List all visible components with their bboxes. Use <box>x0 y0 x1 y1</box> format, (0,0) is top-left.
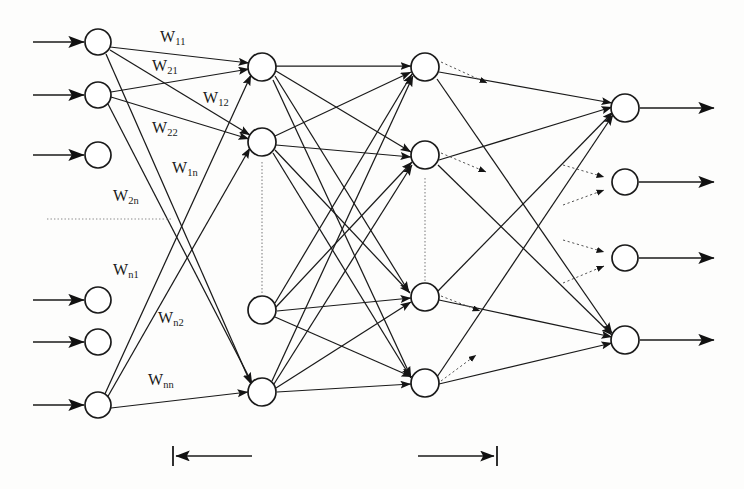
weight-subscript: n2 <box>173 317 184 328</box>
edges-hidden1-to-hidden2 <box>272 66 413 392</box>
node-group <box>85 29 639 418</box>
input-arrow-group <box>33 42 84 405</box>
node-hidden1[interactable] <box>248 128 276 156</box>
dotted-connection-markers <box>441 62 604 381</box>
weight-label-w11: W11 <box>160 29 185 47</box>
weight-label-wnn: Wnn <box>148 372 174 390</box>
weight-symbol: W <box>113 187 128 204</box>
weight-label-w2n: W2n <box>113 188 139 206</box>
weight-label-wn1: Wn1 <box>113 262 139 280</box>
edges-input-to-hidden1 <box>104 47 252 408</box>
edge-h2out <box>439 72 612 103</box>
weight-label-w22: W22 <box>152 120 178 138</box>
edge-h2out <box>438 165 612 335</box>
weight-symbol: W <box>158 309 173 326</box>
weight-subscript: 22 <box>167 127 178 138</box>
node-hidden1[interactable] <box>248 296 276 324</box>
edge-h1h2 <box>275 72 411 136</box>
weight-subscript: nn <box>163 379 174 390</box>
network-canvas <box>0 0 744 489</box>
weight-symbol: W <box>172 159 187 176</box>
weight-subscript: 21 <box>167 65 178 76</box>
weight-subscript: 11 <box>175 36 185 47</box>
edge-h2out <box>439 107 612 160</box>
edge-h1h2 <box>276 162 412 307</box>
weight-label-w1n: W1n <box>172 160 198 178</box>
node-input[interactable] <box>85 29 111 55</box>
layer-caption-row: Input Layer Hidden Layers Output Layer <box>0 440 744 480</box>
edge-w21 <box>111 69 249 92</box>
weight-symbol: W <box>203 89 218 106</box>
edge-h2out <box>437 79 612 333</box>
node-hidden2[interactable] <box>411 141 439 169</box>
weight-subscript: 12 <box>218 97 229 108</box>
dotted-marker-icon <box>563 165 604 177</box>
edge-h2out <box>438 112 613 291</box>
weight-symbol: W <box>152 57 167 74</box>
weight-label-wn2: Wn2 <box>158 310 184 328</box>
edge-h1h2 <box>273 153 411 378</box>
weight-label-w12: W12 <box>203 90 229 108</box>
node-output[interactable] <box>611 326 639 354</box>
node-input[interactable] <box>85 392 111 418</box>
weight-symbol: W <box>148 371 163 388</box>
node-output[interactable] <box>612 169 638 195</box>
weight-symbol: W <box>152 119 167 136</box>
node-hidden2[interactable] <box>411 283 439 311</box>
node-hidden1[interactable] <box>248 378 276 406</box>
edges-hidden2-to-output <box>437 72 613 384</box>
weight-subscript: 1n <box>187 167 198 178</box>
edge-h2out <box>437 115 613 377</box>
dotted-marker-icon <box>563 190 604 205</box>
weight-symbol: W <box>113 261 128 278</box>
node-output[interactable] <box>612 245 638 271</box>
node-input[interactable] <box>85 82 111 108</box>
edge-h1h2 <box>277 384 411 392</box>
dotted-marker-icon <box>563 266 604 283</box>
node-input[interactable] <box>85 142 111 168</box>
node-input[interactable] <box>85 329 111 355</box>
dotted-marker-icon <box>563 240 604 252</box>
edge-h1h2 <box>275 76 409 292</box>
edge-w11 <box>110 47 249 63</box>
weight-subscript: 2n <box>128 195 139 206</box>
node-hidden2[interactable] <box>411 369 439 397</box>
edge-h1h2 <box>277 298 411 311</box>
node-input[interactable] <box>85 287 111 313</box>
weight-symbol: W <box>160 28 175 45</box>
node-hidden2[interactable] <box>411 53 439 81</box>
neural-network-diagram: W11W21W12W22W1nW2nWn1Wn2Wnn Input Layer … <box>0 0 744 489</box>
edge-h1h2 <box>276 145 411 157</box>
weight-subscript: n1 <box>128 269 139 280</box>
edge-h1h2 <box>276 71 411 152</box>
edge-wnn <box>111 392 248 408</box>
weight-label-w21: W21 <box>152 58 178 76</box>
node-hidden1[interactable] <box>248 53 276 81</box>
node-output[interactable] <box>611 94 639 122</box>
edge-h1h2 <box>274 165 412 384</box>
output-arrow-group <box>639 108 714 340</box>
edge-h1h2 <box>275 150 410 293</box>
dotted-marker-icon <box>441 296 480 311</box>
dotted-marker-icon <box>441 153 486 172</box>
